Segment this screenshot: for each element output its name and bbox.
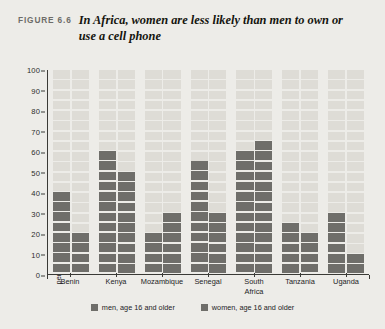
- x-axis-label: Benin: [47, 277, 93, 296]
- legend-swatch-icon: [91, 304, 98, 311]
- y-axis-tick: 10: [19, 250, 45, 259]
- y-axis-tick: 60: [19, 148, 45, 157]
- bar-group: [48, 70, 94, 274]
- y-axis-tick: 40: [19, 189, 45, 198]
- x-axis-label-line: Senegal: [185, 277, 231, 287]
- figure-title: In Africa, women are less likely than me…: [79, 13, 347, 45]
- y-axis-tick: 80: [19, 107, 45, 116]
- y-axis-tick: 30: [19, 209, 45, 218]
- bar-men: [191, 70, 208, 274]
- bar-men: [99, 70, 116, 274]
- bar-women: [72, 70, 89, 274]
- bar-group: [323, 70, 369, 274]
- bar-group: [94, 70, 140, 274]
- bar-groups: [48, 70, 369, 274]
- x-axis-label: Uganda: [323, 277, 369, 296]
- bar-men: [282, 70, 299, 274]
- chart-legend: men, age 16 and olderwomen, age 16 and o…: [0, 303, 385, 312]
- bar-fill: [209, 213, 226, 275]
- bar-fill: [301, 233, 318, 274]
- legend-item-women[interactable]: women, age 16 and older: [201, 303, 294, 312]
- bar-fill: [282, 223, 299, 274]
- legend-label: women, age 16 and older: [212, 303, 294, 312]
- y-axis-tick: 90: [19, 86, 45, 95]
- bar-group: [186, 70, 232, 274]
- x-axis-label: Tanzania: [277, 277, 323, 296]
- plot-area: [47, 70, 369, 275]
- y-axis-tick: 0: [19, 271, 45, 280]
- y-axis-tick: 70: [19, 127, 45, 136]
- bar-fill: [191, 161, 208, 274]
- figure-number: FIGURE 6.6: [18, 13, 72, 25]
- x-axis-label-line: Tanzania: [277, 277, 323, 287]
- bar-women: [301, 70, 318, 274]
- x-axis-label: Kenya: [93, 277, 139, 296]
- bar-fill: [328, 213, 345, 275]
- bar-fill: [53, 192, 70, 274]
- bar-men: [328, 70, 345, 274]
- legend-swatch-icon: [201, 304, 208, 311]
- figure-header: FIGURE 6.6 In Africa, women are less lik…: [18, 13, 371, 45]
- bar-group: [277, 70, 323, 274]
- chart-plot-wrapper: 0102030405060708090100 percentage of pop…: [47, 70, 369, 275]
- x-axis-labels: BeninKenyaMozambiqueSenegalSouthAfricaTa…: [47, 277, 369, 296]
- bar-women: [347, 70, 364, 274]
- x-axis-label-line: South: [231, 277, 277, 287]
- x-axis-edge-tick: [47, 275, 48, 279]
- x-axis-edge-tick: [369, 275, 370, 279]
- x-axis-label-line: Benin: [47, 277, 93, 287]
- x-axis-label-line: Uganda: [323, 277, 369, 287]
- figure-container: FIGURE 6.6 In Africa, women are less lik…: [0, 0, 385, 329]
- y-axis-tick: 50: [19, 168, 45, 177]
- y-axis-tick: 20: [19, 230, 45, 239]
- x-axis-label: Senegal: [185, 277, 231, 296]
- bar-women: [118, 70, 135, 274]
- x-axis-label-line: Mozambique: [139, 277, 185, 287]
- bar-fill: [118, 172, 135, 275]
- y-axis: 0102030405060708090100: [19, 64, 45, 281]
- bar-group: [231, 70, 277, 274]
- bar-fill: [145, 233, 162, 274]
- bar-women: [209, 70, 226, 274]
- bar-men: [53, 70, 70, 274]
- bar-fill: [236, 151, 253, 274]
- x-axis-label: Mozambique: [139, 277, 185, 296]
- bar-women: [255, 70, 272, 274]
- bar-fill: [72, 233, 89, 274]
- x-axis-label-line: Kenya: [93, 277, 139, 287]
- x-axis-label: SouthAfrica: [231, 277, 277, 296]
- y-axis-tick: 100: [19, 66, 45, 75]
- bar-fill: [347, 254, 364, 275]
- x-axis-label-line: Africa: [231, 287, 277, 297]
- bar-fill: [163, 213, 180, 275]
- bar-men: [236, 70, 253, 274]
- bar-men: [145, 70, 162, 274]
- bar-group: [140, 70, 186, 274]
- bar-fill: [255, 141, 272, 274]
- bar-women: [163, 70, 180, 274]
- bar-fill: [99, 151, 116, 274]
- legend-item-men[interactable]: men, age 16 and older: [91, 303, 175, 312]
- legend-label: men, age 16 and older: [102, 303, 175, 312]
